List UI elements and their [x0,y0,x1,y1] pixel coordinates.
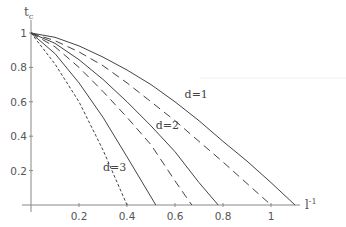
x-axis-title: l-1 [305,197,317,212]
series-line [31,33,127,205]
series-line [31,33,156,205]
y-tick-label: 0.4 [10,130,27,142]
x-tick-label: 0.6 [167,210,184,222]
series-line [31,33,271,205]
y-tick-label: 0.6 [10,96,27,108]
chart-plot: 0.20.40.60.810.20.40.60.81tcl-1 d=1d=2d=… [0,0,346,227]
y-tick-label: 0.8 [10,61,27,73]
series-label: d=3 [103,161,126,174]
y-tick-label: 0.2 [10,165,27,177]
x-tick-label: 0.2 [71,210,88,222]
annotation-labels: d=1d=2d=3 [103,88,208,173]
series-label: d=2 [156,119,179,132]
y-tick-label: 1 [20,27,27,39]
x-tick-label: 0.8 [215,210,232,222]
x-tick-label: 1 [268,210,275,222]
x-tick-label: 0.4 [119,210,136,222]
y-axis-title: tc [24,5,34,21]
series-label: d=1 [185,88,208,101]
